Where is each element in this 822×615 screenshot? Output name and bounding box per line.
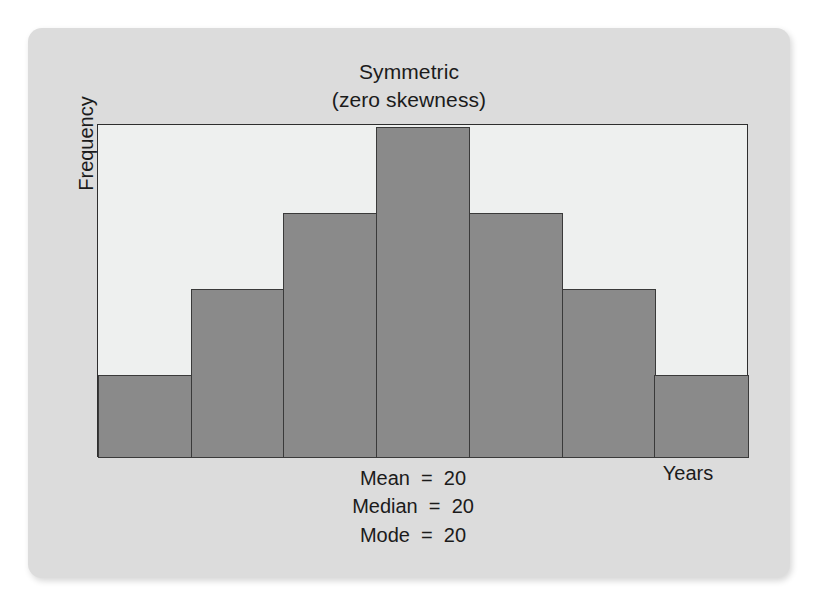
- histogram-chart: Symmetric(zero skewness) Frequency Years…: [28, 28, 790, 578]
- histogram-bar: [469, 213, 563, 458]
- histogram-bar: [191, 289, 285, 458]
- histogram-bar: [98, 375, 192, 458]
- chart-title-line-1: Symmetric: [359, 60, 459, 83]
- histogram-bar: [376, 127, 470, 458]
- x-axis-label: Years: [628, 462, 748, 485]
- chart-title-line-2: (zero skewness): [332, 88, 486, 111]
- plot-frame: [97, 124, 748, 457]
- annotation-median: Median = 20: [253, 492, 573, 520]
- histogram-bar: [562, 289, 656, 458]
- annotation-mode: Mode = 20: [253, 521, 573, 549]
- histogram-bar: [654, 375, 748, 458]
- figure-card: Symmetric(zero skewness) Frequency Years…: [28, 28, 790, 578]
- stats-annotation: Mean = 20 Median = 20 Mode = 20: [253, 464, 573, 549]
- chart-title: Symmetric(zero skewness): [28, 58, 790, 113]
- histogram-bar: [283, 213, 377, 458]
- annotation-mean: Mean = 20: [253, 464, 573, 492]
- bar-series: [98, 125, 747, 456]
- y-axis-label: Frequency: [75, 74, 98, 214]
